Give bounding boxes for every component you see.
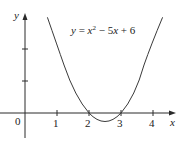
x-tick-label-1: 1 — [53, 117, 59, 129]
y-axis-arrow-icon — [23, 13, 28, 20]
equation-label: y = x2 − 5x + 6 — [70, 24, 136, 36]
y-axis-label: y — [13, 9, 19, 21]
parabola-chart: 0 1 2 3 4 x y y = x2 − 5x + 6 — [0, 0, 180, 144]
x-axis-label: x — [169, 116, 175, 128]
x-tick-label-2: 2 — [85, 117, 91, 129]
x-tick-label-4: 4 — [149, 117, 155, 129]
x-axis-arrow-icon — [169, 111, 176, 116]
origin-label: 0 — [15, 115, 21, 127]
x-tick-label-3: 3 — [117, 117, 123, 129]
